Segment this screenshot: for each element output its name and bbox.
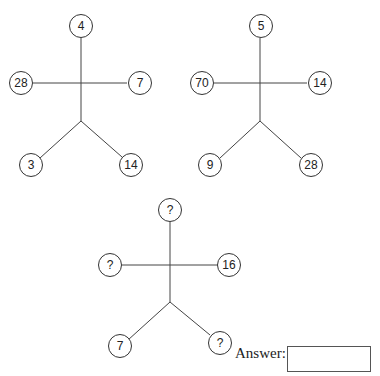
fig2-left-node: 70 — [190, 71, 214, 95]
connector-lines — [0, 0, 380, 376]
fig1-left-node: 28 — [9, 71, 33, 95]
fig2-top-node: 5 — [249, 14, 273, 38]
fig3-right-node: 16 — [217, 253, 241, 277]
fig2-right-node: 14 — [308, 71, 332, 95]
answer-input[interactable] — [287, 346, 371, 372]
fig1-bottom-right-node: 14 — [119, 153, 143, 177]
fig3-top-node: ? — [158, 198, 182, 222]
fig3-bottom-right-node: ? — [208, 331, 232, 355]
fig1-bottom-left-node: 3 — [19, 153, 43, 177]
fig1-top-node: 4 — [69, 14, 93, 38]
fig1-right-node: 7 — [128, 71, 152, 95]
fig2-bottom-left-node: 9 — [198, 153, 222, 177]
answer-label: Answer: — [235, 345, 286, 362]
fig2-bottom-right-node: 28 — [299, 153, 323, 177]
fig3-bottom-left-node: 7 — [108, 334, 132, 358]
fig3-left-node: ? — [98, 253, 122, 277]
